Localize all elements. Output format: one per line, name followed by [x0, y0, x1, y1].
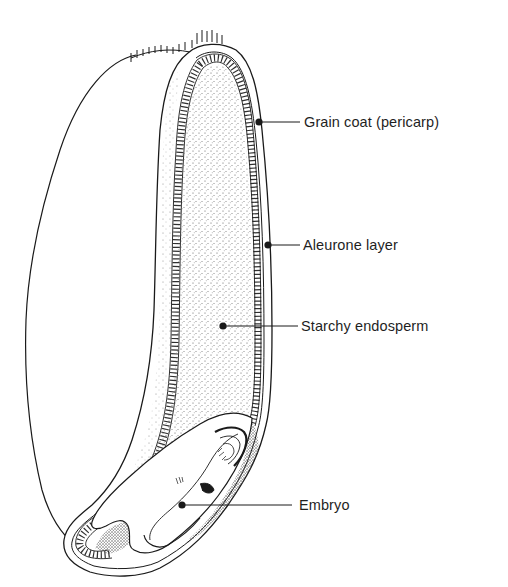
label-embryo: Embryo — [299, 497, 350, 513]
label-grain-coat-pericarp: Grain coat (pericarp) — [304, 114, 439, 130]
leader-pericarp — [255, 118, 300, 125]
leader-aleurone — [264, 241, 300, 248]
wheat-grain-diagram — [0, 0, 508, 587]
label-aleurone-layer: Aleurone layer — [303, 237, 398, 253]
label-starchy-endosperm: Starchy endosperm — [301, 318, 428, 334]
